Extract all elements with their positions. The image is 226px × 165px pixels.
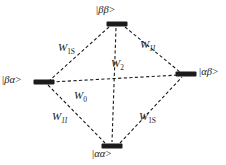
rate-label-w1i-upper-right: W1I (140, 38, 155, 53)
state-node-beta-alpha[interactable] (34, 80, 54, 84)
rate-label-w1s-lower-right: W1S (139, 110, 156, 125)
state-label-alpha-alpha: |αα> (92, 148, 111, 159)
state-node-beta-beta[interactable] (107, 22, 127, 26)
rate-label-w0-center: W0 (74, 89, 87, 104)
transition-line (112, 28, 116, 142)
rate-label-w1s-upper-left: W1S (58, 41, 75, 56)
diagram-canvas: |ββ> |βα> |αβ> |αα> W1S W1I W2 W0 W1I W1… (0, 0, 226, 165)
state-label-beta-alpha: |βα> (2, 74, 21, 85)
state-label-alpha-beta: |αβ> (199, 66, 218, 77)
transition-line (51, 75, 179, 82)
state-label-beta-beta: |ββ> (96, 4, 115, 15)
state-node-alpha-beta[interactable] (176, 72, 196, 76)
rate-label-w1i-lower-left: W1I (52, 110, 67, 125)
rate-label-w2-center: W2 (111, 57, 124, 72)
